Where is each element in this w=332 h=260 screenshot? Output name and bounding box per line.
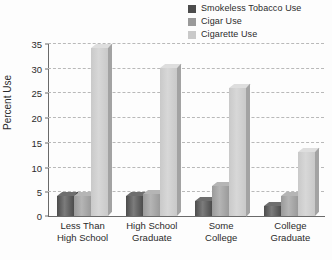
x-axis-category-label: Less ThanHigh School [48,220,117,243]
x-axis-category-line: High School [48,232,117,244]
y-axis-tick-label: 15 [31,137,42,148]
bar-front-face [195,201,212,216]
bar-front-face [74,196,91,216]
x-axis-line [48,216,325,217]
bar-group [255,43,324,216]
y-axis-tick-label: 10 [31,162,42,173]
bar-side-face [315,148,319,216]
legend-item: Smokeless Tobacco Use [188,3,301,14]
legend-swatch-icon [188,31,196,39]
x-axis-category-label: High SchoolGraduate [117,220,186,243]
bar-group [48,43,117,216]
bar-cigarette-use[interactable] [160,68,177,216]
bar-front-face [57,196,74,216]
bar-smokeless-tobacco-use[interactable] [57,196,74,216]
bar-cigar-use[interactable] [74,196,91,216]
y-axis-tick-label: 0 [37,211,42,222]
x-axis-category-line: High School [117,220,186,232]
bar-side-face [177,64,181,216]
bar-front-face [160,68,177,216]
bar-cigar-use[interactable] [212,186,229,216]
y-axis-tick-label: 35 [31,39,42,50]
bar-smokeless-tobacco-use[interactable] [264,206,281,216]
bar-front-face [229,88,246,217]
x-axis-labels: Less ThanHigh SchoolHigh SchoolGraduateS… [48,220,325,243]
bar-smokeless-tobacco-use[interactable] [195,201,212,216]
y-axis-title: Percent Use [2,75,13,130]
y-axis-tick-label: 25 [31,88,42,99]
x-axis-category-line: College [187,232,256,244]
bar-cigarette-use[interactable] [91,48,108,216]
plot-area: 05101520253035 [48,43,324,216]
legend-swatch-icon [188,18,196,26]
bar-side-face [246,83,250,216]
bar-group [186,43,255,216]
bar-cigar-use[interactable] [143,194,160,216]
bar-front-face [126,196,143,216]
x-axis-category-label: SomeCollege [187,220,256,243]
bar-front-face [143,194,160,216]
bar-side-face [108,44,112,216]
chart-legend: Smokeless Tobacco UseCigar UseCigarette … [188,3,301,40]
bar-front-face [91,48,108,216]
bar-front-face [281,196,298,216]
y-axis-tick-label: 30 [31,63,42,74]
legend-item-label: Cigar Use [201,17,242,26]
legend-item: Cigarette Use [188,29,301,40]
y-axis-tick-label: 20 [31,113,42,124]
x-axis-category-line: College [256,220,325,232]
x-axis-category-line: Some [187,220,256,232]
bar-group [117,43,186,216]
bar-smokeless-tobacco-use[interactable] [126,196,143,216]
y-axis-tick-label: 5 [37,187,42,198]
bar-cigarette-use[interactable] [229,88,246,217]
x-axis-category-label: CollegeGraduate [256,220,325,243]
bar-chart: Smokeless Tobacco UseCigar UseCigarette … [0,0,332,260]
bar-cigarette-use[interactable] [298,152,315,216]
legend-item-label: Smokeless Tobacco Use [201,4,301,13]
x-axis-category-line: Less Than [48,220,117,232]
x-axis-category-line: Graduate [256,232,325,244]
bar-front-face [212,186,229,216]
x-axis-category-line: Graduate [117,232,186,244]
legend-item-label: Cigarette Use [201,30,257,39]
bar-cigar-use[interactable] [281,196,298,216]
legend-swatch-icon [188,5,196,13]
bar-front-face [298,152,315,216]
bar-front-face [264,206,281,216]
bar-groups [48,43,324,216]
legend-item: Cigar Use [188,16,301,27]
